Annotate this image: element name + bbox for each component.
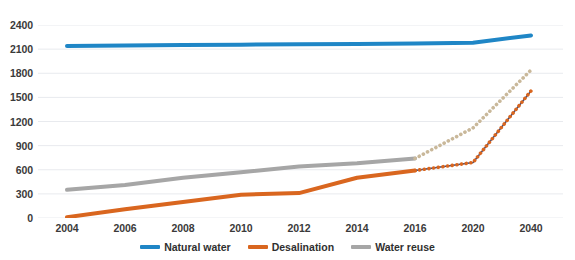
x-tick-label: 2020 xyxy=(462,222,485,234)
y-axis: 240021001800150012009006003000 xyxy=(0,25,33,218)
x-tick-label: 2008 xyxy=(172,222,195,234)
legend-swatch-icon xyxy=(248,245,268,249)
y-tick-label: 1500 xyxy=(10,91,33,103)
series-line-water-reuse xyxy=(67,158,415,189)
legend-item[interactable]: Desalination xyxy=(248,241,334,253)
plot-area xyxy=(38,25,563,218)
legend-swatch-icon xyxy=(140,245,160,249)
y-tick-label: 1200 xyxy=(10,116,33,128)
series-line-natural-water xyxy=(67,35,531,45)
line-chart: 240021001800150012009006003000 200420062… xyxy=(0,0,575,260)
legend-item-label: Water reuse xyxy=(375,241,435,253)
forecast-line-desalination xyxy=(415,91,531,171)
series-line-desalination xyxy=(67,171,415,218)
y-tick-label: 1800 xyxy=(10,67,33,79)
y-tick-label: 2100 xyxy=(10,43,33,55)
y-tick-label: 2400 xyxy=(10,19,33,31)
legend-item-label: Desalination xyxy=(272,241,334,253)
legend-item[interactable]: Natural water xyxy=(140,241,231,253)
legend-item[interactable]: Water reuse xyxy=(351,241,435,253)
y-tick-label: 900 xyxy=(16,140,33,152)
x-tick-label: 2012 xyxy=(288,222,311,234)
legend-swatch-icon xyxy=(351,245,371,249)
x-tick-label: 2010 xyxy=(230,222,253,234)
y-tick-label: 0 xyxy=(27,212,33,224)
x-tick-label: 2016 xyxy=(404,222,427,234)
chart-legend: Natural waterDesalinationWater reuse xyxy=(0,241,575,253)
x-axis: 200420062008201020122014201620202040 xyxy=(38,222,563,240)
y-tick-label: 300 xyxy=(16,188,33,200)
forecast-guide-desalination xyxy=(415,91,531,171)
x-tick-label: 2040 xyxy=(520,222,543,234)
series-lines xyxy=(38,25,563,218)
x-tick-label: 2006 xyxy=(114,222,137,234)
legend-item-label: Natural water xyxy=(164,241,231,253)
x-tick-label: 2004 xyxy=(56,222,79,234)
x-tick-label: 2014 xyxy=(346,222,369,234)
y-tick-label: 600 xyxy=(16,164,33,176)
